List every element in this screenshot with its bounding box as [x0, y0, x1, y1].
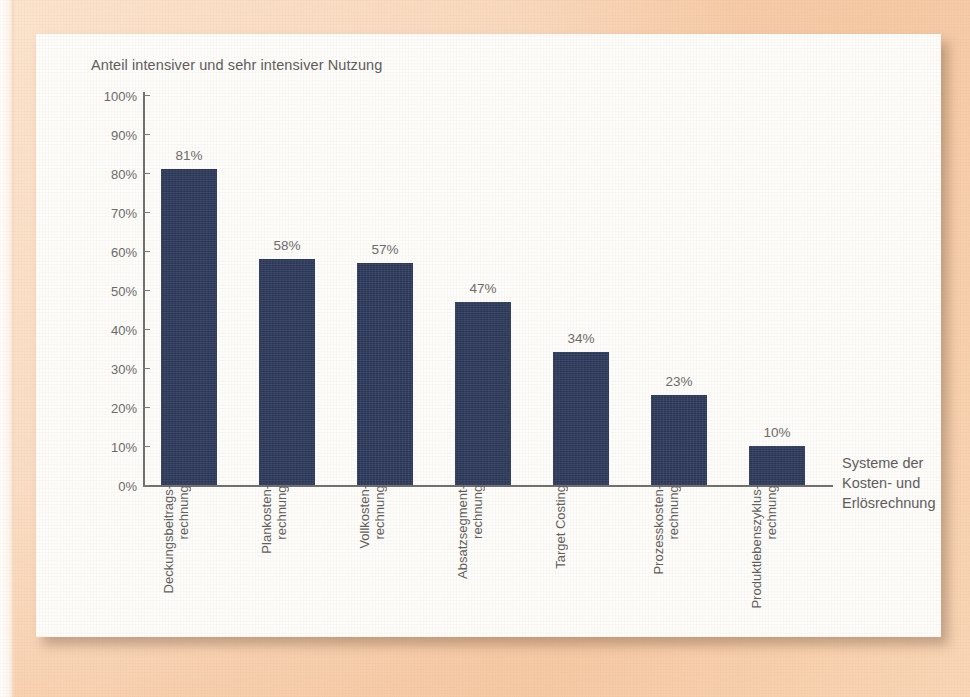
category-label: Absatzsegment- rechnung: [455, 485, 511, 591]
bar-value-label: 23%: [665, 374, 692, 389]
bar[interactable]: 10%: [749, 446, 805, 485]
category-label: Plankosten- rechnung: [259, 485, 315, 566]
y-axis-tick: 60%: [143, 251, 150, 252]
y-axis-tick: 20%: [143, 407, 150, 408]
category-label: Prozesskosten- rechnung: [651, 485, 707, 587]
plot-area: 0%10%20%30%40%50%60%70%80%90%100% 81%58%…: [36, 34, 941, 637]
bar-value-label: 10%: [763, 425, 790, 440]
y-axis-tick-label: 60%: [111, 244, 137, 259]
bar[interactable]: 57%: [357, 263, 413, 485]
y-axis-tick: 40%: [143, 329, 150, 330]
bar-value-label: 34%: [567, 331, 594, 346]
y-axis-tick-label: 30%: [111, 361, 137, 376]
y-axis-tick: 50%: [143, 290, 150, 291]
category-label: Deckungsbeitrags- rechnung: [161, 485, 217, 605]
bar[interactable]: 81%: [161, 169, 217, 485]
y-axis-tick-label: 50%: [111, 283, 137, 298]
page-left-margin: [0, 0, 14, 697]
scanned-page-background: Anteil intensiver und sehr intensiver Nu…: [0, 0, 970, 697]
chart-card: Anteil intensiver und sehr intensiver Nu…: [36, 34, 941, 637]
bar-value-label: 58%: [273, 238, 300, 253]
x-axis-caption: Systeme der Kosten- und Erlösrechnung: [842, 453, 936, 513]
y-axis-tick-label: 80%: [111, 166, 137, 181]
category-label: Vollkosten- rechnung: [357, 485, 413, 561]
category-label: Target Costing: [553, 485, 609, 581]
y-axis-tick: 0%: [143, 485, 150, 486]
y-axis-tick: 10%: [143, 446, 150, 447]
bar-value-label: 57%: [371, 242, 398, 257]
bar[interactable]: 47%: [455, 302, 511, 485]
bar[interactable]: 34%: [553, 352, 609, 485]
y-axis-tick-label: 10%: [111, 439, 137, 454]
y-axis-tick: 70%: [143, 212, 150, 213]
category-label: Produktlebenszyklus- rechnung: [749, 485, 805, 621]
bar[interactable]: 58%: [259, 259, 315, 485]
y-axis-tick-label: 20%: [111, 400, 137, 415]
y-axis-tick: 100%: [143, 95, 150, 96]
bar-value-label: 81%: [175, 148, 202, 163]
y-axis-tick-label: 100%: [104, 88, 137, 103]
y-axis-tick-label: 70%: [111, 205, 137, 220]
y-axis-tick: 80%: [143, 173, 150, 174]
y-axis-tick: 30%: [143, 368, 150, 369]
y-axis-tick-label: 0%: [118, 478, 137, 493]
y-axis-tick: 90%: [143, 134, 150, 135]
bar[interactable]: 23%: [651, 395, 707, 485]
bar-value-label: 47%: [469, 281, 496, 296]
y-axis-tick-label: 40%: [111, 322, 137, 337]
y-axis-tick-label: 90%: [111, 127, 137, 142]
